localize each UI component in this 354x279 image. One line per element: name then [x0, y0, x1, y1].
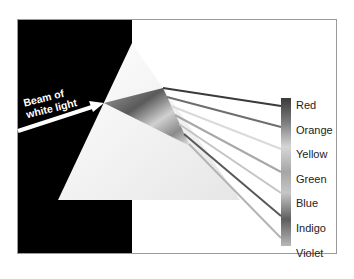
- spectrum-bar: [281, 98, 291, 246]
- label-blue: Blue: [296, 197, 318, 209]
- label-red: Red: [296, 99, 316, 111]
- label-violet: Violet: [296, 247, 323, 259]
- label-indigo: Indigo: [296, 222, 326, 234]
- label-orange: Orange: [296, 124, 333, 136]
- label-green: Green: [296, 173, 327, 185]
- label-yellow: Yellow: [296, 148, 327, 160]
- prism-dispersion-diagram: [0, 0, 354, 279]
